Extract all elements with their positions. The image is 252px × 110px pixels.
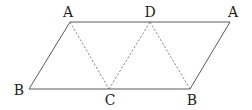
label-D: D (144, 4, 155, 20)
label-B-bottom-left: B (14, 82, 24, 98)
edge-A-B-right (190, 22, 230, 89)
edge-A-C-dashed (70, 22, 109, 89)
edge-D-B-dashed (150, 22, 190, 89)
edge-B-A-left (29, 22, 70, 89)
label-A-top-left: A (62, 4, 74, 20)
label-B-bottom-right: B (187, 92, 197, 108)
label-A-top-right: A (227, 4, 239, 20)
label-C: C (105, 92, 116, 108)
edge-C-D-dashed (109, 22, 150, 89)
parallelogram-diagram: A D A B C B (0, 0, 252, 110)
